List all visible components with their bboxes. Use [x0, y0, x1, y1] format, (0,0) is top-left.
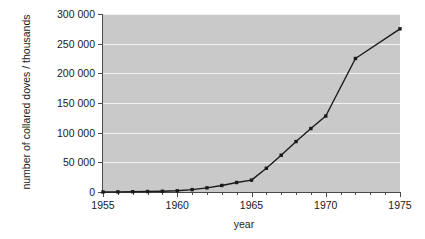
data-point-marker — [354, 57, 357, 60]
data-point-marker — [116, 190, 119, 193]
y-axis-title: number of collared doves / thousands — [20, 12, 32, 192]
data-point-marker — [220, 184, 223, 187]
data-point-marker — [309, 127, 312, 130]
data-point-marker — [398, 27, 401, 30]
data-point-marker — [205, 186, 208, 189]
data-point-marker — [265, 167, 268, 170]
x-axis-title: year — [234, 218, 254, 230]
data-point-marker — [235, 181, 238, 184]
data-series-layer — [0, 0, 425, 239]
data-point-marker — [131, 190, 134, 193]
y-axis-title-wrapper: number of collared doves / thousands — [8, 0, 24, 192]
data-point-marker — [146, 190, 149, 193]
chart-container: 050 000100 000150 000200 000250 000300 0… — [0, 0, 425, 239]
data-point-marker — [101, 190, 104, 193]
series-line — [103, 29, 400, 192]
data-point-marker — [176, 189, 179, 192]
data-point-marker — [250, 178, 253, 181]
data-point-marker — [161, 190, 164, 193]
data-point-marker — [190, 188, 193, 191]
data-point-marker — [324, 114, 327, 117]
data-point-marker — [280, 154, 283, 157]
data-point-marker — [294, 140, 297, 143]
